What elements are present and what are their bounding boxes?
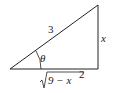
adjacent-exponent: 2 — [79, 68, 85, 80]
adjacent-radicand: 9 − x — [48, 74, 71, 86]
triangle-diagram: 3 x θ 9 − x 2 — [0, 0, 113, 93]
triangle — [10, 5, 98, 69]
opposite-label: x — [100, 32, 106, 44]
angle-label: θ — [40, 52, 46, 64]
hypotenuse-label: 3 — [48, 23, 54, 35]
